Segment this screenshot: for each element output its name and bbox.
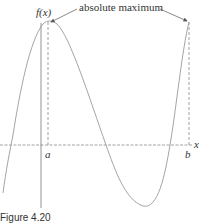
x-axis-label: x: [193, 138, 199, 150]
figure-caption: Figure 4.20: [0, 212, 51, 223]
figure-canvas: absolute maximum f(x) x a b Figure 4.20: [0, 0, 201, 223]
annotation-label: absolute maximum: [79, 1, 163, 13]
point-a-label: a: [45, 148, 51, 160]
function-curve: [3, 21, 189, 206]
point-b-label: b: [185, 148, 191, 160]
annotation-arrow-right: [160, 9, 187, 21]
annotation-arrow-left: [51, 9, 77, 22]
y-axis-label: f(x): [36, 6, 52, 19]
